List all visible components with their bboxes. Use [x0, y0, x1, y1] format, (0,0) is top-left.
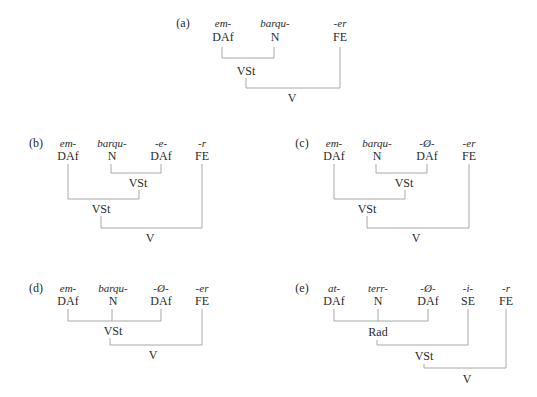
category: DAf	[323, 150, 344, 162]
category: DAf	[323, 295, 344, 307]
category: N	[271, 31, 280, 43]
node: VSt	[415, 350, 434, 362]
node: V	[412, 232, 421, 244]
category: DAf	[212, 31, 233, 43]
morph: -i-	[463, 283, 473, 294]
morph: -e-	[155, 138, 167, 149]
morph: -er	[334, 18, 347, 29]
panel-label: (a)	[176, 17, 189, 29]
category: FE	[333, 31, 347, 43]
category: SE	[461, 295, 475, 307]
morph: em-	[326, 138, 343, 149]
tree-lines	[0, 0, 537, 397]
node: VSt	[92, 203, 111, 215]
category: DAf	[150, 150, 171, 162]
category: FE	[499, 295, 513, 307]
morph: em-	[215, 18, 232, 29]
morph: -Ø-	[419, 138, 434, 149]
category: DAf	[416, 150, 437, 162]
morph: at-	[328, 283, 340, 294]
category: N	[374, 295, 383, 307]
morph: em-	[60, 283, 77, 294]
category: FE	[195, 295, 209, 307]
node: VSt	[395, 177, 414, 189]
morph: terr-	[368, 283, 388, 294]
morph: -r	[502, 283, 510, 294]
category: DAf	[57, 150, 78, 162]
morph: barqu-	[362, 138, 392, 149]
node: VSt	[129, 177, 148, 189]
category: DAf	[57, 295, 78, 307]
node: Rad	[368, 326, 387, 338]
panel-label: (c)	[295, 137, 308, 149]
panel-label: (e)	[295, 282, 308, 294]
category: FE	[195, 150, 209, 162]
category: N	[108, 150, 117, 162]
category: FE	[462, 150, 476, 162]
morph: barqu-	[260, 18, 290, 29]
morph: -r	[198, 138, 206, 149]
category: N	[109, 295, 118, 307]
morph: -Ø-	[420, 283, 435, 294]
morphology-diagram: (a) em- barqu- -er DAf N FE VSt V (b) em…	[0, 0, 537, 397]
node: VSt	[358, 203, 377, 215]
morph: -er	[196, 283, 209, 294]
category: N	[373, 150, 382, 162]
morph: barqu-	[97, 138, 127, 149]
node: VSt	[237, 65, 256, 77]
node: V	[288, 92, 297, 104]
node: V	[149, 349, 158, 361]
node: V	[463, 373, 472, 385]
morph: barqu-	[98, 283, 128, 294]
morph: -er	[463, 138, 476, 149]
panel-label: (d)	[29, 282, 43, 294]
morph: -Ø-	[153, 283, 168, 294]
category: DAf	[417, 295, 438, 307]
node: VSt	[104, 325, 123, 337]
morph: em-	[60, 138, 77, 149]
node: V	[146, 232, 155, 244]
panel-label: (b)	[29, 137, 43, 149]
category: DAf	[150, 295, 171, 307]
